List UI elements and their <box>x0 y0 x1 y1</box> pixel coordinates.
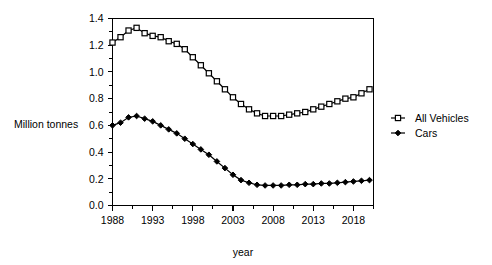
data-point-marker <box>359 178 365 184</box>
data-point-marker <box>278 183 284 189</box>
data-point-marker <box>295 111 300 116</box>
x-tick-label: 1993 <box>141 214 165 226</box>
line-chart: 1988199319982003200820132018 0.00.20.40.… <box>0 0 492 265</box>
x-tick-label: 2018 <box>342 214 366 226</box>
data-point-marker <box>142 31 147 36</box>
y-tick-label: 1.4 <box>89 12 104 24</box>
data-point-marker <box>166 39 171 44</box>
data-point-marker <box>246 107 251 112</box>
data-point-marker <box>287 112 292 117</box>
chart-container: 1988199319982003200820132018 0.00.20.40.… <box>0 0 492 265</box>
data-point-marker <box>271 113 276 118</box>
data-point-marker <box>351 95 356 100</box>
data-point-marker <box>222 87 227 92</box>
series-line <box>113 116 370 185</box>
x-tick-label: 2003 <box>221 214 245 226</box>
data-point-marker <box>343 179 349 185</box>
y-tick-label: 1.0 <box>89 66 104 78</box>
y-tick-label: 0.0 <box>89 199 104 211</box>
y-tick-label: 0.8 <box>89 92 104 104</box>
data-point-marker <box>302 181 308 187</box>
x-tick-label: 2013 <box>302 214 326 226</box>
x-tick-label: 2008 <box>261 214 285 226</box>
data-point-marker <box>174 41 179 46</box>
data-point-marker <box>158 123 164 129</box>
x-tick-label: 1998 <box>181 214 205 226</box>
y-axis-ticks <box>108 19 113 206</box>
data-point-marker <box>279 113 284 118</box>
data-point-marker <box>214 79 219 84</box>
data-point-marker <box>303 109 308 114</box>
data-point-marker <box>238 101 243 106</box>
data-point-marker <box>294 182 300 188</box>
series-cars <box>110 113 373 188</box>
series-all-vehicles <box>110 25 372 118</box>
data-point-marker <box>166 127 172 133</box>
data-point-marker <box>142 116 148 122</box>
data-point-marker <box>198 63 203 68</box>
y-tick-label: 0.6 <box>89 119 104 131</box>
x-axis-ticks <box>113 206 374 211</box>
data-point-marker <box>395 130 401 136</box>
data-point-marker <box>286 182 292 188</box>
plot-frame <box>113 19 374 206</box>
data-point-marker <box>395 115 400 120</box>
data-point-marker <box>367 177 373 183</box>
data-point-marker <box>150 33 155 38</box>
plot-border <box>113 19 374 206</box>
y-tick-label: 0.2 <box>89 173 104 185</box>
data-point-marker <box>118 35 123 40</box>
data-point-marker <box>190 55 195 60</box>
y-axis-title: Million tonnes <box>14 118 78 130</box>
data-point-marker <box>110 123 116 129</box>
data-point-marker <box>254 111 259 116</box>
data-point-marker <box>359 91 364 96</box>
data-point-marker <box>310 181 316 187</box>
data-point-marker <box>182 47 187 52</box>
data-point-marker <box>327 181 333 187</box>
data-point-marker <box>230 95 235 100</box>
data-point-marker <box>254 182 260 188</box>
data-point-marker <box>262 183 268 189</box>
data-point-marker <box>319 104 324 109</box>
x-tick-label: 1988 <box>101 214 125 226</box>
data-point-marker <box>343 96 348 101</box>
data-point-marker <box>126 28 131 33</box>
data-point-marker <box>270 183 276 189</box>
x-axis-tick-labels: 1988199319982003200820132018 <box>101 214 365 226</box>
data-point-marker <box>367 87 372 92</box>
y-axis-tick-labels: 0.00.20.40.60.81.01.21.4 <box>89 12 104 211</box>
data-point-marker <box>311 107 316 112</box>
data-point-marker <box>319 181 325 187</box>
data-point-marker <box>327 101 332 106</box>
data-point-marker <box>335 180 341 186</box>
data-point-marker <box>262 113 267 118</box>
axis-lines <box>113 19 374 206</box>
data-point-marker <box>206 71 211 76</box>
x-axis-title: year <box>233 246 254 258</box>
data-point-marker <box>158 35 163 40</box>
data-point-marker <box>134 113 140 119</box>
y-tick-label: 1.2 <box>89 39 104 51</box>
data-point-marker <box>351 179 357 185</box>
legend-label: Cars <box>415 127 437 139</box>
data-point-marker <box>150 119 156 125</box>
chart-legend: All VehiclesCars <box>391 112 469 139</box>
data-point-marker <box>134 25 139 30</box>
y-tick-label: 0.4 <box>89 146 104 158</box>
legend-label: All Vehicles <box>415 112 469 124</box>
data-point-marker <box>246 180 252 186</box>
data-point-marker <box>335 99 340 104</box>
data-point-marker <box>110 40 115 45</box>
